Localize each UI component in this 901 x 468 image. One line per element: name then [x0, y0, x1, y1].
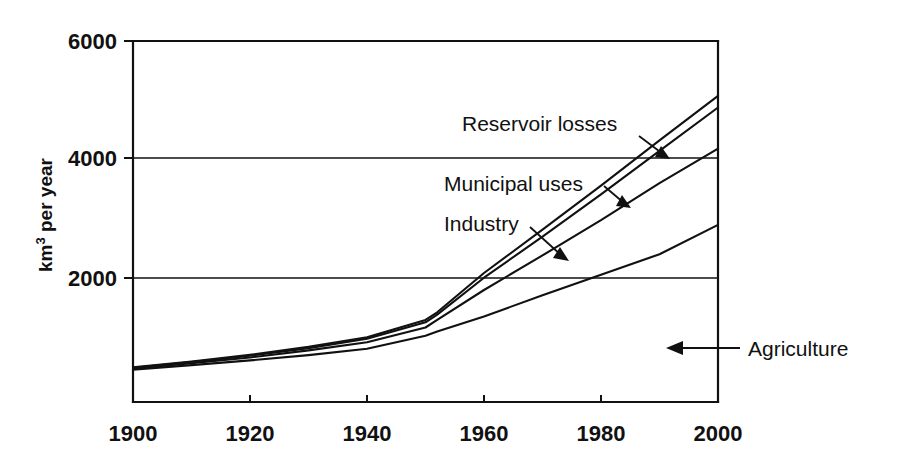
arrow-head-agriculture [666, 341, 683, 355]
annotation-municipal-uses: Municipal uses [444, 172, 631, 208]
x-tick-label-1900: 1900 [109, 421, 158, 446]
y-tick-marks [124, 41, 133, 278]
x-tick-marks [133, 393, 718, 402]
data-curves [133, 96, 718, 370]
y-tick-labels: 6000 4000 2000 [68, 29, 117, 291]
annotation-agriculture: Agriculture [666, 337, 848, 360]
annotation-label-industry: Industry [444, 212, 519, 235]
y-axis-title-tail: per year [35, 157, 56, 237]
plot-frame [133, 41, 718, 402]
y-tick-label-6000: 6000 [68, 29, 117, 54]
curve-municipal-uses [133, 108, 718, 368]
x-tick-labels: 1900 1920 1940 1960 1980 2000 [109, 421, 743, 446]
curve-agriculture [133, 225, 718, 370]
x-tick-label-1920: 1920 [226, 421, 275, 446]
annotation-label-reservoir-losses: Reservoir losses [462, 112, 617, 135]
chart-container: 6000 4000 2000 1900 1920 1940 1960 1980 … [0, 0, 901, 468]
y-axis-title: km3 per year [33, 157, 56, 272]
water-use-line-chart: 6000 4000 2000 1900 1920 1940 1960 1980 … [0, 0, 901, 468]
annotation-label-municipal-uses: Municipal uses [444, 172, 583, 195]
gridlines [133, 158, 718, 278]
annotation-industry: Industry [444, 212, 569, 261]
y-axis-title-superscript: 3 [33, 237, 48, 244]
y-axis-title-group: km3 per year [33, 157, 56, 272]
annotation-reservoir-losses: Reservoir losses [462, 112, 670, 159]
x-tick-label-1980: 1980 [577, 421, 626, 446]
x-tick-label-2000: 2000 [694, 421, 743, 446]
x-tick-label-1940: 1940 [343, 421, 392, 446]
x-tick-label-1960: 1960 [460, 421, 509, 446]
annotation-label-agriculture: Agriculture [748, 337, 848, 360]
y-tick-label-4000: 4000 [68, 146, 117, 171]
y-tick-label-2000: 2000 [68, 266, 117, 291]
y-axis-title-main: km [35, 245, 56, 272]
